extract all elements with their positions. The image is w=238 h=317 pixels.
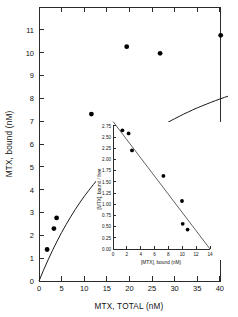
y-tick-3: 3 (30, 208, 34, 217)
y-tick-1: 1 (30, 254, 34, 263)
inset-x-tick-0: 0 (112, 252, 115, 257)
x-axis-label: MTX, TOTAL (nM) (94, 302, 163, 311)
main-x-ticklabels: 0 5 10 15 20 25 30 35 40 (37, 284, 224, 293)
x-tick-30: 30 (170, 284, 178, 293)
inset-y-tick-0: 0.00 (102, 247, 111, 252)
data-point (218, 33, 223, 38)
x-tick-0: 0 (37, 284, 41, 293)
inset-x-tick-8: 8 (167, 252, 170, 257)
inset-y-tick-9: 2.25 (102, 146, 111, 151)
inset-y-axis-label: [MTX], bound / free (97, 168, 102, 209)
figure-container: 0 5 10 15 20 25 30 35 40 0 (0, 0, 238, 317)
x-tick-20: 20 (125, 284, 133, 293)
inset-x-axis-label: [MTX], bound (nM) (141, 260, 181, 265)
inset-y-tick-2: 0.50 (102, 224, 111, 229)
data-point (45, 247, 50, 252)
y-axis-label: MTX, bound (nM) (5, 111, 14, 178)
main-x-ticks (39, 276, 220, 281)
y-tick-6: 6 (30, 140, 34, 149)
x-tick-35: 35 (193, 284, 201, 293)
inset-y-tick-5: 1.25 (102, 191, 111, 196)
inset-data-point (180, 199, 184, 203)
inset-y-tick-1: 0.25 (102, 236, 111, 241)
inset-y-tick-11: 2.75 (102, 124, 111, 129)
y-tick-2: 2 (30, 231, 34, 240)
main-x-ticks-top (62, 7, 220, 12)
y-tick-9: 9 (30, 71, 34, 80)
inset-x-tick-10: 10 (180, 252, 186, 257)
inset-x-tick-12: 12 (194, 252, 200, 257)
inset-x-tick-4: 4 (139, 252, 142, 257)
y-tick-5: 5 (30, 163, 34, 172)
inset-scatchard-plot: 0.00 0.25 0.50 0.75 1.00 1.25 1.50 1.75 … (96, 122, 222, 266)
inset-y-tick-3: 0.75 (102, 213, 111, 218)
binding-curve-figure: 0 5 10 15 20 25 30 35 40 0 (0, 0, 238, 317)
inset-x-tick-2: 2 (126, 252, 129, 257)
inset-x-tick-14: 14 (207, 252, 213, 257)
x-tick-40: 40 (216, 284, 224, 293)
main-y-ticklabels: 0 1 2 3 4 5 6 7 8 9 10 11 (26, 26, 34, 286)
inset-y-tick-7: 1.75 (102, 168, 111, 173)
data-point (158, 51, 163, 56)
y-tick-8: 8 (30, 94, 34, 103)
x-tick-5: 5 (60, 284, 64, 293)
y-tick-11: 11 (26, 26, 34, 35)
inset-data-point (162, 174, 166, 178)
x-tick-25: 25 (148, 284, 156, 293)
y-tick-4: 4 (30, 186, 34, 195)
inset-data-point (186, 228, 190, 232)
data-point (124, 44, 129, 49)
y-tick-7: 7 (30, 117, 34, 126)
inset-data-point (127, 132, 131, 136)
data-point (89, 112, 94, 117)
inset-y-tick-4: 1.00 (102, 202, 111, 207)
y-tick-10: 10 (26, 49, 34, 58)
data-point (54, 216, 59, 221)
x-tick-15: 15 (103, 284, 111, 293)
inset-y-tick-6: 1.50 (102, 180, 111, 185)
inset-data-point (121, 128, 125, 132)
inset-y-tick-8: 2.00 (102, 157, 111, 162)
data-point (52, 226, 57, 231)
main-y-ticks (39, 30, 44, 281)
inset-data-point (130, 149, 134, 153)
inset-x-tick-6: 6 (153, 252, 156, 257)
x-tick-10: 10 (80, 284, 88, 293)
y-tick-0: 0 (30, 277, 34, 286)
inset-data-point (181, 222, 185, 226)
inset-y-tick-10: 2.50 (102, 135, 111, 140)
